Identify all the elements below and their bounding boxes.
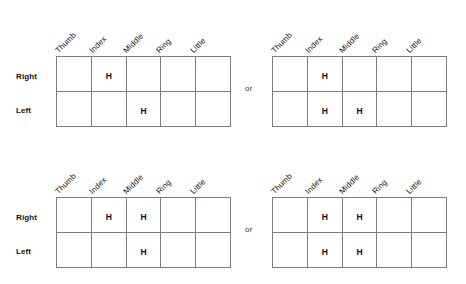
row-label-left: Left	[16, 93, 56, 127]
cell-right-thumb[interactable]	[273, 57, 308, 92]
mark-h: H	[140, 212, 146, 222]
column-header-ring: Ring	[371, 37, 389, 55]
cell-left-little[interactable]	[412, 92, 447, 127]
column-header-index: Index	[87, 34, 108, 55]
column-header-thumb: Thumb	[54, 31, 78, 55]
column-header-ring: Ring	[371, 178, 389, 196]
cell-right-little[interactable]	[412, 57, 447, 92]
cell-left-ring[interactable]	[161, 92, 196, 127]
cell-right-little[interactable]	[196, 57, 231, 92]
cell-right-middle[interactable]	[342, 57, 377, 92]
cell-left-index[interactable]: H	[307, 92, 342, 127]
cell-right-thumb[interactable]	[273, 198, 308, 233]
cell-right-thumb[interactable]	[57, 57, 92, 92]
mark-h: H	[322, 71, 328, 81]
column-header-ring: Ring	[155, 37, 173, 55]
column-header-row: ThumbIndexMiddleRingLittle	[56, 157, 231, 197]
cell-left-index[interactable]	[91, 233, 126, 268]
grid-wrapper: ThumbIndexMiddleRingLittleHH	[56, 56, 231, 127]
table-row: HH	[273, 92, 447, 127]
cell-right-ring[interactable]	[377, 57, 412, 92]
mark-h: H	[356, 212, 362, 222]
table-row: H	[273, 57, 447, 92]
cell-left-thumb[interactable]	[57, 233, 92, 268]
mark-h: H	[322, 247, 328, 257]
panel-top-left: RightLeftThumbIndexMiddleRingLittleHH	[16, 56, 231, 127]
column-header-thumb: Thumb	[54, 172, 78, 196]
table-row: HH	[57, 198, 231, 233]
cell-right-little[interactable]	[196, 198, 231, 233]
mark-h: H	[356, 106, 362, 116]
mark-h: H	[140, 247, 146, 257]
cell-left-ring[interactable]	[161, 233, 196, 268]
cell-right-ring[interactable]	[161, 57, 196, 92]
cell-left-thumb[interactable]	[273, 233, 308, 268]
column-header-middle: Middle	[121, 32, 144, 55]
cell-left-little[interactable]	[412, 233, 447, 268]
column-header-row: ThumbIndexMiddleRingLittle	[272, 157, 447, 197]
column-header-little: Little	[189, 36, 208, 55]
mark-h: H	[106, 212, 112, 222]
column-header-index: Index	[87, 175, 108, 196]
cell-right-index[interactable]: H	[307, 198, 342, 233]
column-header-middle: Middle	[337, 173, 360, 196]
cell-right-ring[interactable]	[161, 198, 196, 233]
mark-h: H	[322, 212, 328, 222]
row-label-column: RightLeft	[16, 200, 56, 268]
mark-h: H	[356, 247, 362, 257]
column-header-little: Little	[189, 177, 208, 196]
cell-left-index[interactable]	[91, 92, 126, 127]
table-row: H	[57, 92, 231, 127]
cell-left-little[interactable]	[196, 92, 231, 127]
column-header-middle: Middle	[121, 173, 144, 196]
column-header-little: Little	[405, 177, 424, 196]
row-label-left: Left	[16, 234, 56, 268]
column-header-thumb: Thumb	[270, 31, 294, 55]
cell-right-middle[interactable]: H	[342, 198, 377, 233]
cell-left-middle[interactable]: H	[342, 233, 377, 268]
cell-right-index[interactable]: H	[307, 57, 342, 92]
table-row: H	[57, 57, 231, 92]
column-header-ring: Ring	[155, 178, 173, 196]
cell-left-middle[interactable]: H	[126, 233, 161, 268]
table-row: HH	[273, 198, 447, 233]
cell-left-middle[interactable]: H	[126, 92, 161, 127]
grid-wrapper: ThumbIndexMiddleRingLittleHHH	[56, 197, 231, 268]
column-header-index: Index	[303, 34, 324, 55]
hand-finger-grid: HHH	[56, 197, 231, 268]
cell-right-little[interactable]	[412, 198, 447, 233]
column-header-row: ThumbIndexMiddleRingLittle	[272, 16, 447, 56]
panel-bottom-right: ThumbIndexMiddleRingLittleHHHH	[272, 197, 447, 268]
cell-left-thumb[interactable]	[57, 92, 92, 127]
column-header-little: Little	[405, 36, 424, 55]
grid-wrapper: ThumbIndexMiddleRingLittleHHH	[272, 56, 447, 127]
column-header-index: Index	[303, 175, 324, 196]
finger-position-figure: RightLeftThumbIndexMiddleRingLittleHHThu…	[0, 0, 466, 284]
or-separator-top: or	[245, 84, 253, 93]
mark-h: H	[322, 106, 328, 116]
row-label-right: Right	[16, 59, 56, 93]
cell-left-thumb[interactable]	[273, 92, 308, 127]
cell-right-ring[interactable]	[377, 198, 412, 233]
cell-right-index[interactable]: H	[91, 57, 126, 92]
hand-finger-grid: HHHH	[272, 197, 447, 268]
cell-right-middle[interactable]	[126, 57, 161, 92]
cell-right-index[interactable]: H	[91, 198, 126, 233]
cell-left-little[interactable]	[196, 233, 231, 268]
row-label-right: Right	[16, 200, 56, 234]
cell-left-index[interactable]: H	[307, 233, 342, 268]
cell-left-middle[interactable]: H	[342, 92, 377, 127]
cell-left-ring[interactable]	[377, 92, 412, 127]
panel-bottom-left: RightLeftThumbIndexMiddleRingLittleHHH	[16, 197, 231, 268]
column-header-middle: Middle	[337, 32, 360, 55]
column-header-row: ThumbIndexMiddleRingLittle	[56, 16, 231, 56]
or-separator-bottom: or	[245, 225, 253, 234]
row-label-column: RightLeft	[16, 59, 56, 127]
mark-h: H	[140, 106, 146, 116]
panel-top-right: ThumbIndexMiddleRingLittleHHH	[272, 56, 447, 127]
hand-finger-grid: HHH	[272, 56, 447, 127]
cell-right-thumb[interactable]	[57, 198, 92, 233]
mark-h: H	[106, 71, 112, 81]
cell-right-middle[interactable]: H	[126, 198, 161, 233]
cell-left-ring[interactable]	[377, 233, 412, 268]
